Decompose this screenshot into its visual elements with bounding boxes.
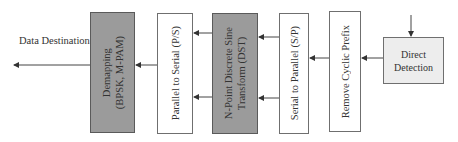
block-demapping: Demapping (BPSK, M-PAM) bbox=[90, 12, 135, 133]
block-serial-to-parallel: Serial to Parallel (S/P) bbox=[279, 13, 309, 134]
block-remove-cp-text: Remove Cyclic Prefix bbox=[339, 25, 352, 118]
block-parallel-to-serial: Parallel to Serial (P/S) bbox=[157, 13, 193, 134]
block-s2p-text: Serial to Parallel (S/P) bbox=[288, 26, 301, 120]
block-remove-cyclic-prefix: Remove Cyclic Prefix bbox=[329, 11, 361, 132]
block-dst-text: N-Point Discrete Sine Transform (DST) bbox=[222, 27, 248, 119]
block-dst: N-Point Discrete Sine Transform (DST) bbox=[212, 13, 258, 134]
block-dst-line-1: N-Point Discrete Sine bbox=[222, 27, 235, 119]
block-remove-cp-line-1: Remove Cyclic Prefix bbox=[339, 25, 352, 118]
block-p2s-text: Parallel to Serial (P/S) bbox=[169, 26, 182, 120]
block-detection-line-1: Direct bbox=[394, 48, 433, 61]
receiver-block-diagram: Data Destination Demapping (BPSK, M-PAM)… bbox=[0, 0, 458, 142]
block-direct-detection: Direct Detection bbox=[383, 37, 444, 84]
block-s2p-line-1: Serial to Parallel (S/P) bbox=[288, 26, 301, 120]
block-demapping-line-2: (BPSK, M-PAM) bbox=[113, 36, 126, 109]
block-detection-text: Direct Detection bbox=[394, 48, 433, 74]
block-detection-line-2: Detection bbox=[394, 61, 433, 74]
block-dst-line-2: Transform (DST) bbox=[235, 27, 248, 119]
block-p2s-line-1: Parallel to Serial (P/S) bbox=[169, 26, 182, 120]
block-demapping-line-1: Demapping bbox=[100, 36, 113, 109]
block-demapping-text: Demapping (BPSK, M-PAM) bbox=[100, 36, 126, 109]
data-destination-label: Data Destination bbox=[19, 35, 90, 46]
